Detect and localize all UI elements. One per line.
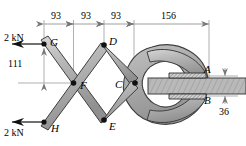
pivot-C xyxy=(132,80,138,86)
dimension-label-93-2: 93 xyxy=(81,11,91,21)
point-label-A: A xyxy=(204,64,211,75)
dimension-label-156: 156 xyxy=(161,11,176,21)
jaw-pad-lower xyxy=(169,94,206,99)
force-label-bottom: 2 kN xyxy=(4,128,24,138)
point-label-E: E xyxy=(109,121,116,132)
jaw-pad-upper xyxy=(169,73,206,78)
point-label-C: C xyxy=(115,79,122,90)
point-label-F: F xyxy=(80,80,87,91)
pivot-E xyxy=(101,117,107,123)
point-label-D: D xyxy=(109,36,117,47)
point-label-B: B xyxy=(204,95,211,106)
pivot-F xyxy=(71,80,77,86)
dimension-label-93-1: 93 xyxy=(51,11,61,21)
dimension-label-111: 111 xyxy=(8,59,22,69)
point-label-H: H xyxy=(51,123,59,134)
point-label-G: G xyxy=(50,37,58,48)
engineering-figure: 93 93 93 156 111 36 2 kN 2 kN G H D E F … xyxy=(0,0,246,146)
gripped-bar xyxy=(148,78,246,94)
dimension-label-36: 36 xyxy=(219,107,229,117)
dimension-label-93-3: 93 xyxy=(111,11,121,21)
force-label-top: 2 kN xyxy=(4,33,24,43)
pivot-D xyxy=(101,42,107,48)
